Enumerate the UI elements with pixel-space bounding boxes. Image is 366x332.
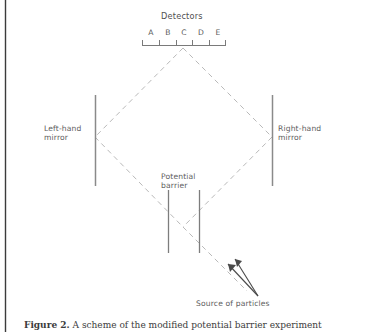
detector-bar-group <box>142 40 226 46</box>
detector-label-e: E <box>211 28 225 37</box>
right-hand-mirror-label-line2: mirror <box>278 133 302 142</box>
source-arrow-head-b <box>235 259 242 267</box>
potential-barrier-label-line1: Potential <box>161 172 196 181</box>
figure-caption-text: A scheme of the modified potential barri… <box>73 320 322 330</box>
source-arrow-group <box>228 259 258 296</box>
beam-upper-right-arm <box>183 48 272 137</box>
figure-caption: Figure 2. A scheme of the modified poten… <box>24 320 354 331</box>
beam-upper-left-arm <box>95 48 183 137</box>
detector-label-c: C <box>177 28 191 37</box>
left-hand-mirror-label-line2: mirror <box>44 133 68 142</box>
potential-barrier-label-line2: barrier <box>161 181 188 190</box>
figure-page: Detectors A B C D E Left-hand mirror Rig… <box>0 0 366 332</box>
beam-lower-right-arm <box>183 137 272 227</box>
detectors-title: Detectors <box>161 12 203 21</box>
detector-label-b: B <box>161 28 175 37</box>
detector-label-d: D <box>194 28 208 37</box>
source-of-particles-label: Source of particles <box>196 299 270 308</box>
left-hand-mirror-label-line1: Left-hand <box>44 124 81 133</box>
figure-caption-number: Figure 2. <box>24 320 70 330</box>
beam-path-group <box>95 48 272 291</box>
detector-label-a: A <box>144 28 158 37</box>
interferometer-diagram <box>0 0 366 332</box>
beam-incoming-ray <box>183 227 247 291</box>
right-hand-mirror-label-line1: Right-hand <box>278 124 321 133</box>
